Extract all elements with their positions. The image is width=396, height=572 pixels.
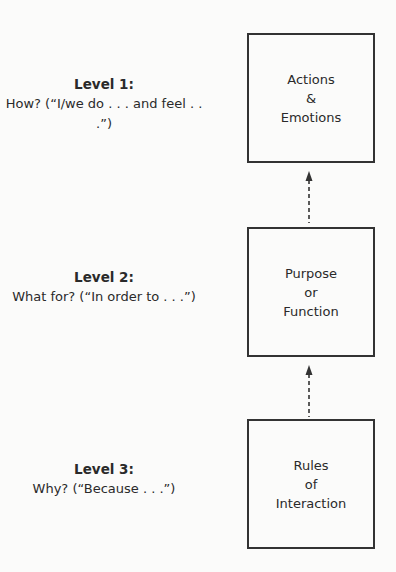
level-3-label: Level 3: Why? (“Because . . .”) [0, 459, 208, 499]
level-2-title: Level 2: [0, 267, 208, 287]
box-1-line-3: Emotions [281, 108, 342, 127]
dashed-arrow-up-icon [303, 364, 315, 418]
box-1-line-1: Actions [287, 70, 335, 89]
box-2-line-2: or [304, 283, 317, 302]
level-1-question: How? (“I/we do . . . and feel . . .”) [0, 94, 208, 134]
level-2-label: Level 2: What for? (“In order to . . .”) [0, 267, 208, 307]
level-1-label: Level 1: How? (“I/we do . . . and feel .… [0, 74, 208, 134]
level-3-question: Why? (“Because . . .”) [0, 479, 208, 499]
box-2-line-3: Function [283, 302, 338, 321]
box-1-line-2: & [306, 89, 316, 108]
box-actions-emotions: Actions & Emotions [247, 33, 375, 163]
dashed-arrow-up-icon [303, 170, 315, 224]
box-2-line-1: Purpose [285, 264, 337, 283]
box-purpose-function: Purpose or Function [247, 227, 375, 357]
level-1-title: Level 1: [0, 74, 208, 94]
level-2-question: What for? (“In order to . . .”) [0, 287, 208, 307]
level-3-title: Level 3: [0, 459, 208, 479]
box-3-line-3: Interaction [276, 494, 347, 513]
box-3-line-1: Rules [293, 456, 328, 475]
box-3-line-2: of [305, 475, 318, 494]
box-rules-interaction: Rules of Interaction [247, 419, 375, 549]
